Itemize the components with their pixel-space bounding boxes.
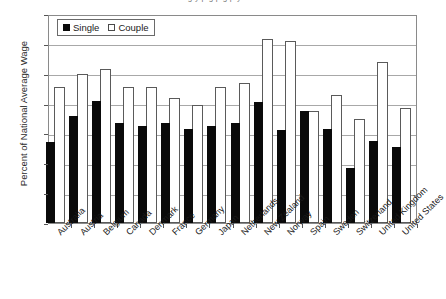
- bar-couple: [146, 87, 157, 223]
- bar-single: [254, 102, 263, 223]
- bar-couple: [331, 95, 342, 223]
- bar-single: [92, 101, 101, 223]
- legend-label-couple: Couple: [118, 22, 148, 33]
- bar-single: [184, 129, 193, 223]
- bar-couple: [262, 39, 273, 223]
- y-tick-mark: [44, 75, 48, 76]
- bar-single: [300, 111, 309, 223]
- bar-couple: [239, 83, 250, 223]
- legend-swatch-couple-icon: [108, 24, 115, 31]
- bar-single: [323, 129, 332, 223]
- y-tick-mark: [44, 15, 48, 16]
- bar-single: [46, 142, 55, 223]
- legend-label-single: Single: [73, 22, 99, 33]
- bar-couple: [192, 105, 203, 223]
- y-tick-mark: [44, 224, 48, 225]
- y-axis-label: Percent of National Average Wage: [18, 14, 29, 214]
- bar-couple: [354, 119, 365, 224]
- legend-item-couple: Couple: [108, 22, 148, 33]
- y-tick-mark: [44, 194, 48, 195]
- bar-couple: [77, 74, 88, 223]
- bar-couple: [308, 111, 319, 223]
- bar-single: [231, 123, 240, 223]
- legend-item-single: Single: [63, 22, 99, 33]
- bar-couple: [100, 69, 111, 223]
- chart-legend: Single Couple: [57, 19, 155, 36]
- gridline: [49, 45, 416, 46]
- bar-couple: [215, 87, 226, 223]
- y-tick-mark: [44, 164, 48, 165]
- y-tick-mark: [44, 45, 48, 46]
- plot-area: [48, 15, 417, 224]
- y-tick-mark: [44, 134, 48, 135]
- legend-swatch-single-icon: [63, 24, 70, 31]
- bar-couple: [123, 87, 134, 223]
- bar-couple: [54, 87, 65, 223]
- bar-couple: [285, 41, 296, 223]
- y-tick-mark: [44, 105, 48, 106]
